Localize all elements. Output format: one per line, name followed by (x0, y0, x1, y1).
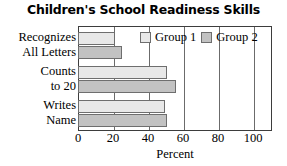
xtick-label-40: 40 (142, 132, 155, 145)
bar-recognizes-all-letters-group-1 (78, 32, 115, 45)
x-axis-title: Percent (78, 147, 272, 162)
bar-writes-name-group-2 (78, 114, 167, 127)
bar-counts-to-20-group-1 (78, 66, 167, 79)
category-label-recognizes: Recognizes (0, 31, 76, 44)
category-label-to-20: to 20 (0, 80, 76, 93)
x-axis-ticks: 0 20 40 60 80 100 (0, 132, 287, 146)
legend: Group 1 Group 2 (140, 31, 258, 43)
category-label-all-letters: All Letters (0, 46, 76, 59)
xtick-label-0: 0 (75, 132, 81, 145)
xtick-label-80: 80 (212, 132, 225, 145)
legend-item-group-2: Group 2 (201, 31, 257, 43)
legend-swatch-icon-group-2 (201, 32, 212, 43)
xtick-label-60: 60 (177, 132, 190, 145)
category-label-writes: Writes (0, 99, 76, 112)
legend-item-group-1: Group 1 (140, 31, 196, 43)
category-label-counts: Counts (0, 65, 76, 78)
xtick-label-20: 20 (107, 132, 120, 145)
bar-counts-to-20-group-2 (78, 80, 176, 93)
chart-title: Children's School Readiness Skills (0, 2, 287, 17)
legend-label-group-1: Group 1 (155, 31, 196, 43)
legend-label-group-2: Group 2 (216, 31, 257, 43)
chart-screenshot: Children's School Readiness Skills Recog… (0, 0, 287, 166)
category-label-name: Name (0, 114, 76, 127)
bar-writes-name-group-1 (78, 100, 165, 113)
category-axis: Recognizes All Letters Counts to 20 Writ… (0, 26, 76, 131)
bar-recognizes-all-letters-group-2 (78, 46, 122, 59)
xtick-label-100: 100 (244, 132, 263, 145)
legend-swatch-icon-group-1 (140, 32, 151, 43)
